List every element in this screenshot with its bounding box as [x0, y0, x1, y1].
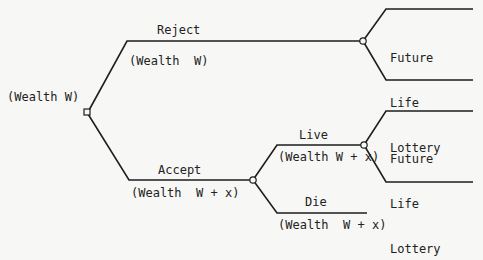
lottery-line: Life — [390, 197, 441, 212]
root-wealth-label: (Wealth W) — [7, 90, 79, 104]
lottery-line: Future — [390, 51, 441, 66]
lottery-line: Future — [390, 152, 441, 167]
lottery-line: Lottery — [390, 242, 441, 257]
die-label: Die — [305, 195, 327, 209]
lottery-line: Life — [390, 96, 441, 111]
live-chance-node — [361, 142, 367, 148]
live-future-life-lottery: Future Life Lottery — [390, 122, 441, 260]
accept-wealth-label: (Wealth W + x) — [131, 186, 239, 200]
reject-label: Reject — [157, 23, 200, 37]
reject-chance-node — [360, 38, 366, 44]
die-wealth-label: (Wealth W + x) — [278, 218, 386, 232]
reject-wealth-label: (Wealth W) — [129, 54, 208, 68]
reject-branch-line — [88, 41, 363, 112]
accept-chance-node — [250, 177, 256, 183]
live-label: Live — [299, 128, 328, 142]
live-wealth-label: (Wealth W + x) — [278, 150, 379, 164]
accept-label: Accept — [158, 163, 201, 177]
decision-node-square — [84, 109, 90, 115]
